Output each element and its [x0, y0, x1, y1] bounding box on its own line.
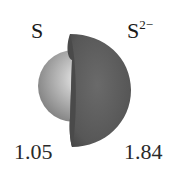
atom-radius: 1.05: [14, 141, 53, 163]
ion-radius: 1.84: [124, 141, 163, 163]
ion-hemisphere: [70, 34, 131, 147]
